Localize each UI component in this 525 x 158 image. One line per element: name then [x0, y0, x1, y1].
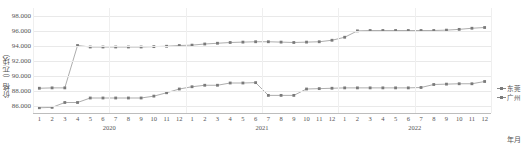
legend-item[interactable]: 东莞	[497, 84, 525, 93]
x-tick-label: 5	[241, 115, 244, 122]
data-point-marker	[254, 81, 257, 84]
x-tick-label: 11	[316, 115, 322, 122]
legend-item[interactable]: 广州	[497, 93, 525, 102]
data-point-marker	[432, 83, 435, 86]
data-point-marker	[152, 95, 155, 98]
y-tick-label: 94.000	[0, 42, 31, 50]
x-axis-title: 年月	[507, 134, 521, 144]
gridline-vertical	[109, 8, 110, 113]
data-point-marker	[38, 87, 41, 90]
x-tick-label: 4	[381, 115, 384, 122]
data-point-marker	[63, 101, 66, 104]
x-axis-year-label: 2020	[103, 124, 116, 131]
data-point-marker	[305, 41, 308, 44]
data-point-marker	[471, 82, 474, 85]
data-point-marker	[51, 86, 54, 89]
data-point-marker	[394, 86, 397, 89]
data-point-marker	[280, 94, 283, 97]
data-point-marker	[191, 85, 194, 88]
x-axis-year-label: 2022	[408, 124, 421, 131]
data-point-marker	[483, 80, 486, 83]
gridline-vertical	[33, 8, 34, 113]
data-point-marker	[127, 97, 130, 100]
x-tick-label: 2	[50, 115, 53, 122]
data-point-marker	[267, 94, 270, 97]
x-tick-label: 12	[481, 115, 488, 122]
x-tick-label: 7	[267, 115, 270, 122]
y-tick-label: 86.000	[0, 102, 31, 110]
data-point-marker	[242, 82, 245, 85]
x-tick-label: 12	[176, 115, 183, 122]
x-axis-line	[33, 113, 491, 114]
x-tick-label: 10	[151, 115, 158, 122]
data-point-marker	[76, 101, 79, 104]
x-tick-label: 8	[432, 115, 435, 122]
data-point-marker	[343, 86, 346, 89]
y-tick-label: 88.000	[0, 87, 31, 95]
gridline-vertical	[415, 8, 416, 113]
y-tick-label: 90.000	[0, 72, 31, 80]
x-tick-label: 6	[407, 115, 410, 122]
x-tick-label: 4	[76, 115, 79, 122]
x-tick-label: 9	[140, 115, 143, 122]
data-point-marker	[343, 36, 346, 39]
x-tick-label: 5	[394, 115, 397, 122]
x-tick-label: 3	[216, 115, 219, 122]
x-tick-label: 1	[38, 115, 41, 122]
data-point-marker	[242, 41, 245, 44]
data-point-marker	[331, 39, 334, 42]
x-tick-label: 9	[445, 115, 448, 122]
x-tick-label: 6	[254, 115, 257, 122]
data-point-marker	[102, 97, 105, 100]
gridline-vertical	[186, 8, 187, 113]
legend-label: 东莞	[507, 85, 521, 93]
data-point-marker	[114, 97, 117, 100]
gridline-vertical	[338, 8, 339, 113]
data-point-marker	[407, 86, 410, 89]
x-tick-label: 2	[203, 115, 206, 122]
data-point-marker	[203, 84, 206, 87]
data-point-marker	[216, 84, 219, 87]
x-tick-label: 10	[303, 115, 310, 122]
data-point-marker	[445, 83, 448, 86]
data-point-marker	[471, 27, 474, 30]
data-point-marker	[229, 82, 232, 85]
data-point-marker	[292, 41, 295, 44]
gridline-vertical	[262, 8, 263, 113]
x-tick-label: 11	[163, 115, 169, 122]
line-chart: 价格（元/块） 86.00088.00090.00092.00094.00096…	[0, 0, 525, 158]
data-point-marker	[229, 41, 232, 44]
x-tick-label: 4	[229, 115, 232, 122]
gridline-vertical	[491, 8, 492, 113]
x-tick-label: 1	[343, 115, 346, 122]
x-tick-label: 5	[89, 115, 92, 122]
data-point-marker	[369, 86, 372, 89]
data-point-marker	[458, 82, 461, 85]
data-point-marker	[292, 94, 295, 97]
data-point-marker	[165, 91, 168, 94]
x-tick-label: 9	[292, 115, 295, 122]
legend-marker-icon	[497, 97, 506, 98]
data-point-marker	[318, 40, 321, 43]
data-point-marker	[331, 87, 334, 90]
data-point-marker	[267, 40, 270, 43]
y-tick-label: 96.000	[0, 27, 31, 35]
x-tick-label: 12	[329, 115, 336, 122]
data-point-marker	[38, 106, 41, 109]
legend: 东莞广州	[497, 84, 525, 102]
x-tick-label: 3	[63, 115, 66, 122]
x-tick-label: 7	[114, 115, 117, 122]
data-point-marker	[280, 41, 283, 44]
data-point-marker	[381, 86, 384, 89]
data-point-marker	[216, 42, 219, 45]
x-tick-label: 7	[419, 115, 422, 122]
plot-area	[33, 8, 491, 113]
x-tick-label: 8	[127, 115, 130, 122]
legend-marker-icon	[497, 88, 506, 89]
x-tick-label: 3	[369, 115, 372, 122]
x-axis-year-label: 2021	[256, 124, 269, 131]
x-tick-label: 11	[469, 115, 475, 122]
legend-label: 广州	[507, 94, 521, 102]
data-point-marker	[356, 86, 359, 89]
data-point-marker	[140, 97, 143, 100]
